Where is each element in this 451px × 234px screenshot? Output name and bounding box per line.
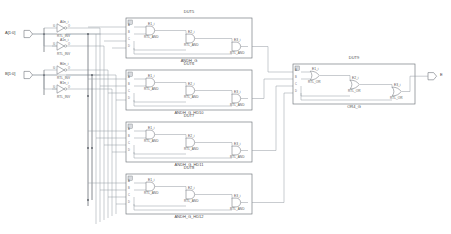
gate-prim-e2: RTL_AND bbox=[184, 96, 198, 99]
block-pin-c: C bbox=[128, 143, 130, 146]
gate-inst-e3[interactable]: E3_i bbox=[234, 195, 241, 198]
gate-inst-e2[interactable]: E2_i bbox=[188, 135, 195, 138]
pin-label-i0: I0 bbox=[53, 68, 55, 71]
gate-inst-e3[interactable]: E3_i bbox=[234, 143, 241, 146]
schematic-canvas: A[1:0] B[1:0] E A0n_i RTL_INV A1n_i RTL_… bbox=[0, 0, 451, 234]
block-pin-d: D bbox=[128, 98, 130, 101]
gate-prim-e3: RTL_AND bbox=[230, 104, 244, 107]
pin-label-o: O bbox=[68, 44, 70, 47]
pin-label-o: O bbox=[68, 26, 70, 29]
inverter-prim-b0n: RTL_INV bbox=[57, 77, 70, 80]
block-pin-a: A bbox=[295, 70, 297, 73]
gate-prim-e1: RTL_AND bbox=[144, 140, 158, 143]
gate-inst-e3[interactable]: E3_i bbox=[234, 39, 241, 42]
inverter-inst-b1n[interactable]: B1n_i bbox=[60, 82, 68, 85]
gate-prim-e1: RTL_AND bbox=[144, 88, 158, 91]
or-gate-prim-e3: RTL_OR bbox=[390, 97, 403, 100]
block-title-dut8[interactable]: DUT8 bbox=[184, 166, 194, 170]
gate-prim-e1: RTL_AND bbox=[144, 192, 158, 195]
inverter-inst-a0n[interactable]: A0n_i bbox=[60, 21, 68, 24]
port-label-b[interactable]: B[1:0] bbox=[5, 72, 15, 76]
block-title-dut6[interactable]: DUT6 bbox=[184, 62, 194, 66]
inverter-inst-a1n[interactable]: A1n_i bbox=[60, 39, 68, 42]
pin-label-o: O bbox=[68, 68, 70, 71]
gate-prim-e2: RTL_AND bbox=[184, 148, 198, 151]
port-label-a[interactable]: A[1:0] bbox=[5, 31, 15, 35]
or-gate-prim-e1: RTL_OR bbox=[308, 81, 321, 84]
gate-prim-e3: RTL_AND bbox=[230, 156, 244, 159]
block-pin-d: D bbox=[128, 46, 130, 49]
block-title-dut7[interactable]: DUT7 bbox=[184, 114, 194, 118]
block-module-dut8: ANDH_G_HD12 bbox=[174, 215, 203, 219]
gate-inst-e2[interactable]: E2_i bbox=[188, 31, 195, 34]
block-pin-a: A bbox=[128, 25, 130, 28]
gate-inst-e2[interactable]: E2_i bbox=[188, 187, 195, 190]
block-pin-a: A bbox=[128, 181, 130, 184]
pin-label-i0: I0 bbox=[53, 87, 55, 90]
inverter-inst-b0n[interactable]: B0n_i bbox=[60, 63, 68, 66]
gate-inst-e1[interactable]: E1_i bbox=[148, 23, 155, 26]
gate-inst-e1[interactable]: E1_i bbox=[148, 75, 155, 78]
block-pin-b: B bbox=[128, 84, 130, 87]
inverter-prim-a1n: RTL_INV bbox=[57, 53, 70, 56]
block-pin-c: C bbox=[128, 91, 130, 94]
block-pin-d: D bbox=[295, 91, 297, 94]
block-pin-d: D bbox=[128, 150, 130, 153]
block-pin-a: A bbox=[128, 129, 130, 132]
gate-prim-e3: RTL_AND bbox=[230, 208, 244, 211]
block-pin-a: A bbox=[128, 77, 130, 80]
block-pin-b: B bbox=[128, 32, 130, 35]
gate-prim-e2: RTL_AND bbox=[184, 44, 198, 47]
or-gate-prim-e2: RTL_OR bbox=[348, 90, 361, 93]
inverter-prim-b1n: RTL_INV bbox=[57, 96, 70, 99]
block-pin-c: C bbox=[128, 195, 130, 198]
gate-inst-e3[interactable]: E3_i bbox=[234, 91, 241, 94]
block-pin-d: D bbox=[128, 202, 130, 205]
gate-inst-e1[interactable]: E1_i bbox=[148, 179, 155, 182]
block-title-dut9[interactable]: DUT9 bbox=[349, 56, 359, 60]
pin-label-i0: I0 bbox=[53, 26, 55, 29]
gate-prim-e1: RTL_AND bbox=[144, 36, 158, 39]
block-title-dut5[interactable]: DUT5 bbox=[184, 10, 194, 14]
pin-label-o: O bbox=[68, 87, 70, 90]
block-pin-b: B bbox=[128, 188, 130, 191]
port-label-e[interactable]: E bbox=[440, 73, 443, 77]
gate-inst-e1[interactable]: E1_i bbox=[148, 127, 155, 130]
block-pin-b: B bbox=[128, 136, 130, 139]
gate-prim-e2: RTL_AND bbox=[184, 200, 198, 203]
or-gate-inst-e1[interactable]: E1_i bbox=[312, 68, 319, 71]
gate-inst-e2[interactable]: E2_i bbox=[188, 83, 195, 86]
block-pin-c: C bbox=[295, 84, 297, 87]
block-module-or4g: OR4_G bbox=[347, 105, 361, 109]
gate-prim-e3: RTL_AND bbox=[230, 52, 244, 55]
or-gate-inst-e2[interactable]: E2_i bbox=[352, 77, 359, 80]
block-pin-b: B bbox=[295, 77, 297, 80]
or-gate-inst-e3[interactable]: E3_i bbox=[394, 84, 401, 87]
block-pin-c: C bbox=[128, 39, 130, 42]
pin-label-i0: I0 bbox=[53, 44, 55, 47]
